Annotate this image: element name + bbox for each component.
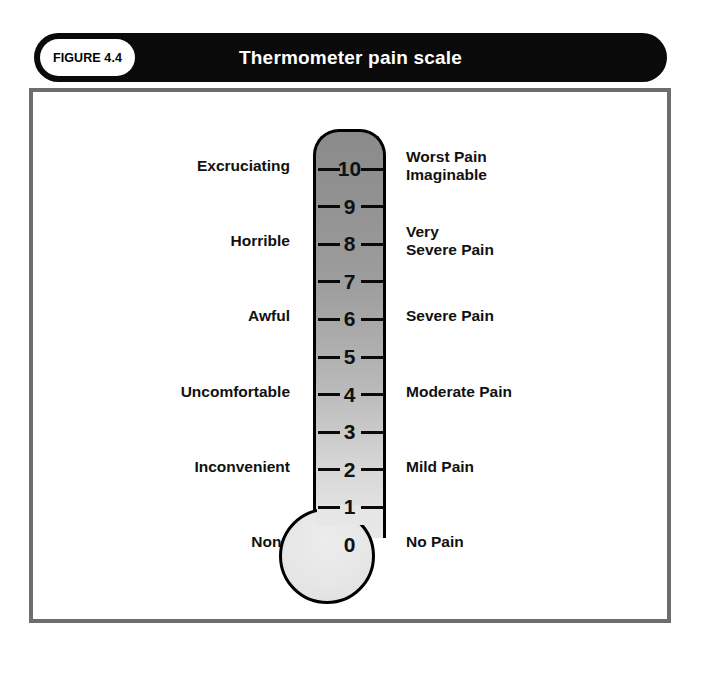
pain-level-number-2: 2 <box>313 458 386 482</box>
pain-descriptor-left-4: Uncomfortable <box>181 383 290 401</box>
pain-level-number-6: 6 <box>313 307 386 331</box>
pain-level-number-5: 5 <box>313 345 386 369</box>
pain-descriptor-left-2: Inconvenient <box>194 458 290 476</box>
pain-descriptor-left-8: Horrible <box>231 232 290 250</box>
pain-descriptor-right-6: Severe Pain <box>406 307 494 325</box>
pain-level-number-7: 7 <box>313 270 386 294</box>
pain-level-number-8: 8 <box>313 232 386 256</box>
pain-descriptor-right-4: Moderate Pain <box>406 383 512 401</box>
pain-level-number-10: 10 <box>313 157 386 181</box>
pain-descriptor-left-10: Excruciating <box>197 157 290 175</box>
pain-descriptor-right-8: Very Severe Pain <box>406 223 494 259</box>
pain-descriptor-right-10: Worst Pain Imaginable <box>406 148 487 184</box>
pain-level-number-4: 4 <box>313 383 386 407</box>
pain-descriptor-right-0: No Pain <box>406 533 464 551</box>
pain-level-number-3: 3 <box>313 420 386 444</box>
pain-descriptor-right-2: Mild Pain <box>406 458 474 476</box>
pain-descriptor-left-6: Awful <box>248 307 290 325</box>
pain-level-number-9: 9 <box>313 195 386 219</box>
pain-level-number-0: 0 <box>313 533 386 557</box>
pain-level-number-1: 1 <box>313 495 386 519</box>
figure-page: FIGURE 4.4 Thermometer pain scale Excruc… <box>0 0 701 674</box>
